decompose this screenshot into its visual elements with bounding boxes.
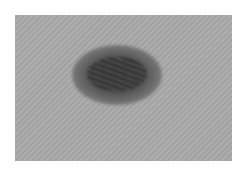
- skin-photo: [15, 15, 232, 161]
- lesion-core: [87, 57, 147, 91]
